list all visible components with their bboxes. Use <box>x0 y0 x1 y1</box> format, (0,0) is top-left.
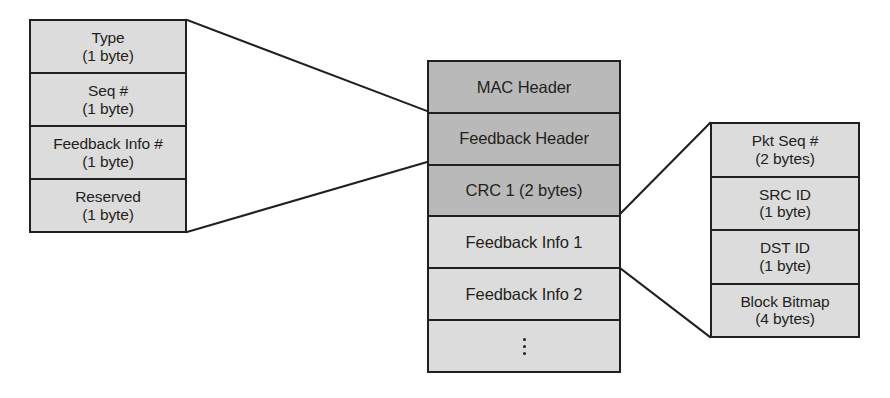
table-row: Pkt Seq # (2 bytes) <box>712 124 858 178</box>
stack-row-label: Feedback Header <box>459 129 589 148</box>
field-label: Pkt Seq # <box>752 132 818 150</box>
stack-row-feedback-header: Feedback Header <box>429 114 619 166</box>
field-label: DST ID <box>760 239 810 257</box>
table-row: Reserved (1 byte) <box>31 180 185 231</box>
connector-feedback-header-expansion-top <box>187 20 427 111</box>
vertical-ellipsis-icon <box>523 321 526 371</box>
table-row: Type (1 byte) <box>31 21 185 74</box>
connector-feedback-header-expansion-bottom <box>187 162 427 232</box>
field-label: Block Bitmap <box>740 293 829 311</box>
field-label: Reserved <box>75 188 141 206</box>
table-row: Feedback Info # (1 byte) <box>31 127 185 180</box>
field-size: (1 byte) <box>82 206 134 224</box>
stack-row-label: Feedback Info 2 <box>466 285 583 304</box>
connector-feedback-info-expansion-bottom <box>620 268 710 337</box>
field-label: Type <box>91 29 124 47</box>
stack-row-label: Feedback Info 1 <box>466 233 583 252</box>
stack-row-label: CRC 1 (2 bytes) <box>466 181 583 200</box>
field-label: Seq # <box>88 82 128 100</box>
field-label: Feedback Info # <box>53 135 163 153</box>
connector-feedback-info-expansion-top <box>620 123 710 214</box>
table-row: Seq # (1 byte) <box>31 74 185 127</box>
field-label: SRC ID <box>759 186 811 204</box>
field-size: (1 byte) <box>82 100 134 118</box>
stack-row-feedback-info-2: Feedback Info 2 <box>429 269 619 321</box>
stack-row-mac-header: MAC Header <box>429 62 619 114</box>
stack-row-feedback-info-1: Feedback Info 1 <box>429 217 619 269</box>
table-row: SRC ID (1 byte) <box>712 178 858 232</box>
field-size: (2 bytes) <box>755 150 814 168</box>
packet-structure-diagram: Type (1 byte) Seq # (1 byte) Feedback In… <box>0 0 890 398</box>
table-row: Block Bitmap (4 bytes) <box>712 285 858 337</box>
field-size: (1 byte) <box>82 47 134 65</box>
feedback-info-field-table: Pkt Seq # (2 bytes) SRC ID (1 byte) DST … <box>710 122 860 338</box>
field-size: (1 byte) <box>82 153 134 171</box>
feedback-header-field-table: Type (1 byte) Seq # (1 byte) Feedback In… <box>29 19 187 233</box>
stack-row-crc-1: CRC 1 (2 bytes) <box>429 166 619 218</box>
stack-row-label: MAC Header <box>477 78 571 97</box>
table-row: DST ID (1 byte) <box>712 231 858 285</box>
field-size: (4 bytes) <box>755 310 814 328</box>
feedback-packet-layout-stack: MAC Header Feedback Header CRC 1 (2 byte… <box>427 60 621 373</box>
stack-row-continuation <box>429 321 619 371</box>
field-size: (1 byte) <box>759 257 811 275</box>
field-size: (1 byte) <box>759 203 811 221</box>
